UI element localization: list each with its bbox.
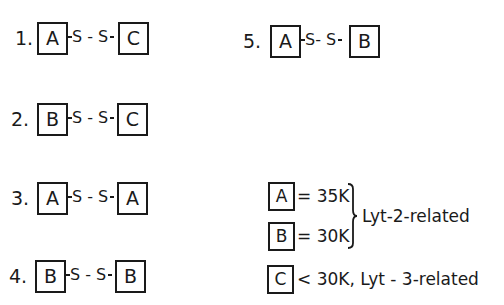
legend-box-b: B — [268, 222, 295, 251]
subunit-box-left: B — [37, 103, 68, 136]
legend-group-label: Lyt-2-related — [362, 202, 470, 231]
legend-box-a: A — [268, 182, 295, 211]
subunit-box-left: A — [270, 25, 301, 58]
subunit-box-right: B — [349, 25, 380, 58]
disulfide-label: S - S — [72, 187, 108, 206]
subunit-box-right: C — [117, 103, 148, 136]
bond-tick — [110, 196, 114, 198]
combination-2: 2. B S - S C — [0, 103, 160, 135]
combination-4: 4. B S - S B — [0, 260, 160, 292]
disulfide-link: S- S — [301, 25, 342, 57]
disulfide-link: S - S — [68, 182, 114, 214]
subunit-box-right: B — [115, 260, 146, 293]
combination-number: 2. — [11, 103, 29, 135]
legend-box-c: C — [267, 265, 294, 294]
combination-number: 3. — [11, 182, 29, 214]
bond-tick — [108, 274, 112, 276]
disulfide-label: S - S — [70, 265, 106, 284]
combination-3: 3. A S - S A — [0, 182, 160, 214]
right-brace-icon — [346, 183, 358, 249]
legend-value-c: < 30K, Lyt - 3-related — [297, 265, 479, 294]
bond-tick — [338, 39, 342, 41]
combination-number: 5. — [243, 25, 261, 57]
disulfide-label: S- S — [305, 30, 336, 49]
subunit-box-left: B — [35, 260, 66, 293]
subunit-box-right: A — [117, 182, 148, 215]
bond-tick — [110, 117, 114, 119]
disulfide-link: S - S — [68, 103, 114, 135]
legend-value-b: = 30K — [297, 222, 349, 251]
disulfide-label: S - S — [72, 108, 108, 127]
subunit-box-left: A — [37, 182, 68, 215]
disulfide-link: S - S — [66, 260, 112, 292]
legend-value-a: = 35K — [297, 182, 349, 211]
combination-number: 4. — [9, 260, 27, 292]
combination-5: 5. A S- S B — [0, 25, 400, 57]
